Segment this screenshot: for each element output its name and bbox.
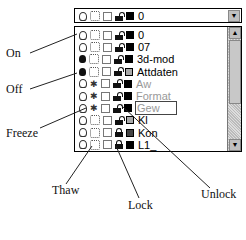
- annotation-on: On: [6, 46, 21, 61]
- annotation-off: Off: [6, 82, 22, 97]
- annotation-unlock: Unlock: [201, 187, 236, 202]
- annotation-thaw: Thaw: [52, 183, 79, 198]
- annotation-lock: Lock: [128, 198, 153, 213]
- annotation-freeze: Freeze: [6, 126, 38, 141]
